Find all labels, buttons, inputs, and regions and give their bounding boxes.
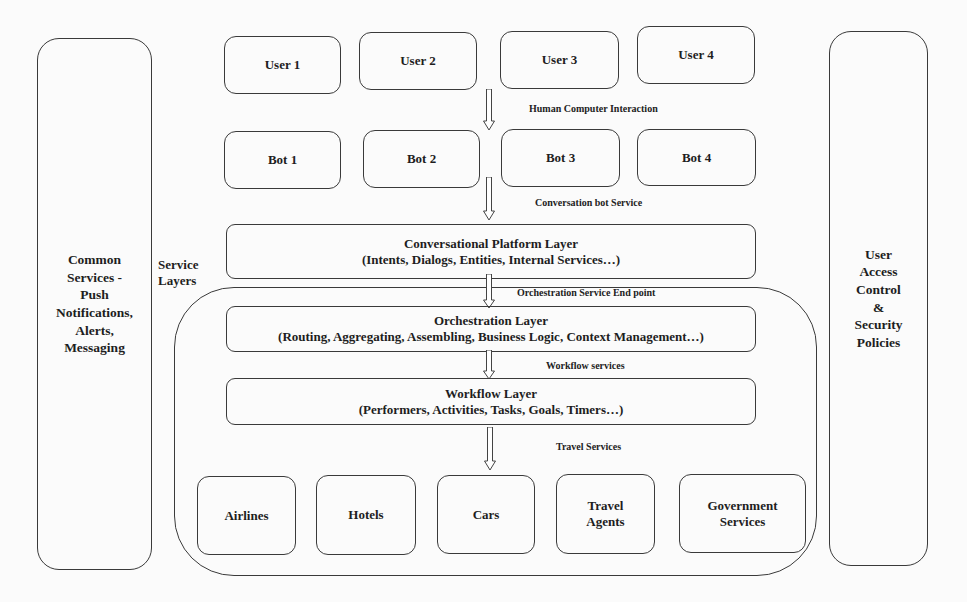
user-1-box: User 1 xyxy=(224,36,341,94)
orchestration-endpoint-label: Orchestration Service End point xyxy=(517,287,655,298)
service-government-box: Government Services xyxy=(679,474,806,553)
common-services-panel: Common Services - Push Notifications, Al… xyxy=(37,38,152,570)
common-services-line: Services - xyxy=(67,269,122,287)
layer-title: Orchestration Layer xyxy=(434,313,548,329)
workflow-layer: Workflow Layer (Performers, Activities, … xyxy=(226,378,756,425)
bot-3-box: Bot 3 xyxy=(501,129,620,187)
bot-label: Bot 4 xyxy=(682,150,711,166)
service-airlines-box: Airlines xyxy=(197,476,296,555)
security-line: Policies xyxy=(857,334,901,352)
user-3-box: User 3 xyxy=(500,31,619,89)
service-label: Government xyxy=(707,498,777,514)
common-services-line: Messaging xyxy=(64,339,125,357)
user-label: User 2 xyxy=(400,53,436,69)
security-line: User xyxy=(865,246,892,264)
security-line: Access xyxy=(859,263,897,281)
service-layers-label: Service Layers xyxy=(158,257,198,288)
security-line: & xyxy=(873,299,884,317)
user-label: User 1 xyxy=(265,57,301,73)
common-services-line: Notifications, xyxy=(56,304,133,322)
down-arrow-icon xyxy=(483,350,495,380)
user-label: User 3 xyxy=(542,52,578,68)
layer-subtitle: (Routing, Aggregating, Assembling, Busin… xyxy=(278,329,704,345)
bot-service-label: Conversation bot Service xyxy=(535,197,642,208)
down-arrow-icon xyxy=(483,177,495,221)
common-services-line: Common xyxy=(68,251,121,269)
user-4-box: User 4 xyxy=(637,26,755,84)
service-layers-line: Service xyxy=(158,257,198,273)
bot-label: Bot 3 xyxy=(546,150,575,166)
service-label: Cars xyxy=(473,507,500,523)
hci-label: Human Computer Interaction xyxy=(529,103,658,114)
security-line: Control xyxy=(856,281,901,299)
conversational-platform-layer: Conversational Platform Layer (Intents, … xyxy=(226,224,756,279)
layer-subtitle: (Performers, Activities, Tasks, Goals, T… xyxy=(359,402,624,418)
bot-label: Bot 2 xyxy=(407,151,436,167)
layer-title: Workflow Layer xyxy=(445,386,537,402)
down-arrow-icon xyxy=(484,427,496,471)
service-travel-agents-box: Travel Agents xyxy=(556,474,655,554)
user-2-box: User 2 xyxy=(359,32,477,90)
bot-label: Bot 1 xyxy=(268,152,297,168)
service-label: Airlines xyxy=(224,508,268,524)
travel-services-label: Travel Services xyxy=(556,441,621,452)
security-line: Security xyxy=(855,316,903,334)
bot-4-box: Bot 4 xyxy=(637,129,756,186)
service-label: Hotels xyxy=(348,507,383,523)
service-layers-line: Layers xyxy=(158,273,198,289)
down-arrow-icon xyxy=(483,89,495,131)
service-cars-box: Cars xyxy=(437,475,535,554)
layer-title: Conversational Platform Layer xyxy=(404,236,578,252)
service-label: Services xyxy=(720,514,765,530)
down-arrow-icon xyxy=(483,274,495,309)
user-label: User 4 xyxy=(678,47,714,63)
security-policies-panel: User Access Control & Security Policies xyxy=(829,31,928,566)
common-services-line: Push xyxy=(80,286,109,304)
common-services-line: Alerts, xyxy=(75,322,114,340)
bot-1-box: Bot 1 xyxy=(224,131,341,189)
service-label: Agents xyxy=(586,514,624,530)
orchestration-layer: Orchestration Layer (Routing, Aggregatin… xyxy=(226,306,756,352)
bot-2-box: Bot 2 xyxy=(363,130,480,188)
service-hotels-box: Hotels xyxy=(316,475,416,555)
layer-subtitle: (Intents, Dialogs, Entities, Internal Se… xyxy=(362,252,620,268)
service-label: Travel xyxy=(588,498,624,514)
workflow-services-label: Workflow services xyxy=(546,360,625,371)
